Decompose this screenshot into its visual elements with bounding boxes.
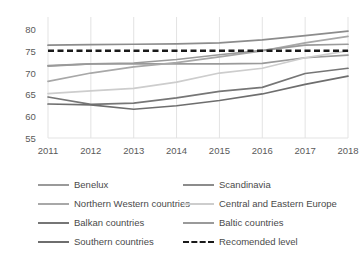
plot-area: 556065707580 201120122013201420152016201… [0,0,360,170]
legend-swatch-icon [183,203,214,205]
legend-swatch-icon [38,222,69,224]
legend-item[interactable]: Central and Eastern Europe [183,197,337,211]
legend-swatch-icon [38,184,69,186]
chart-legend: BeneluxScandinaviaNorthern Western count… [0,176,360,255]
legend-item-label: Scandinavia [219,180,271,190]
legend-item[interactable]: Southern countries [38,235,154,249]
legend-item[interactable]: Balkan countries [38,216,144,230]
legend-item[interactable]: Northern Western countries [38,197,190,211]
x-tick-label: 2017 [295,145,316,156]
legend-item-label: Benelux [74,180,108,190]
legend-item[interactable]: Scandinavia [183,178,271,192]
legend-item-label: Northern Western countries [74,199,190,209]
legend-item-label: Recomended level [219,237,298,247]
x-tick-label: 2015 [209,145,230,156]
x-tick-label: 2014 [166,145,187,156]
legend-item[interactable]: Benelux [38,178,108,192]
line-chart: 556065707580 201120122013201420152016201… [0,0,360,255]
legend-item-label: Balkan countries [74,218,144,228]
legend-item-label: Baltic countries [219,218,283,228]
legend-swatch-icon [183,184,214,186]
x-tick-label: 2011 [38,145,58,156]
legend-swatch-icon [183,241,214,243]
x-tick-label: 2016 [252,145,273,156]
legend-swatch-icon [38,203,69,205]
legend-item[interactable]: Baltic countries [183,216,283,230]
legend-item[interactable]: Recomended level [183,235,298,249]
x-tick-label: 2012 [80,145,101,156]
x-axis-tick-labels: 20112012201320142015201620172018 [0,0,360,170]
legend-item-label: Central and Eastern Europe [219,199,337,209]
x-tick-label: 2013 [123,145,144,156]
legend-swatch-icon [183,222,214,224]
x-tick-label: 2018 [337,145,358,156]
legend-swatch-icon [38,241,69,243]
legend-item-label: Southern countries [74,237,154,247]
